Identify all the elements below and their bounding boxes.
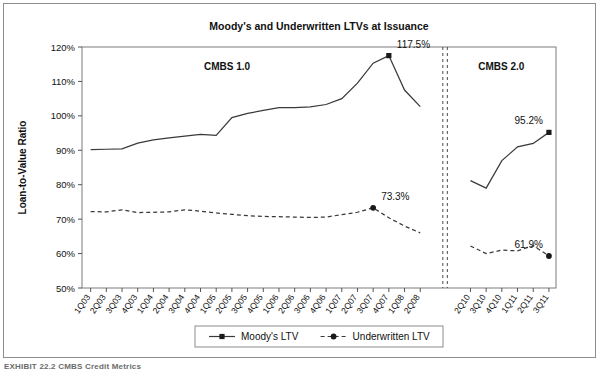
x-tick-label-cmbs2: 2Q11 xyxy=(515,292,535,315)
x-tick-label-cmbs2: 3Q11 xyxy=(531,292,551,315)
y-tick-label: 50% xyxy=(56,283,76,294)
legend-label-0: Moody's LTV xyxy=(241,331,299,342)
legend-marker-square xyxy=(219,334,224,339)
y-tick-label: 80% xyxy=(56,179,76,190)
series-line-moodys-cmbs1 xyxy=(91,56,421,150)
series-line-underwritten-cmbs1 xyxy=(91,208,421,233)
value-annotation-1: 73.3% xyxy=(381,191,409,202)
ltv-line-chart: Moody's and Underwritten LTVs at Issuanc… xyxy=(4,4,597,359)
value-annotation-3: 61.9% xyxy=(515,239,543,250)
y-tick-label: 110% xyxy=(51,76,75,87)
y-tick-label: 60% xyxy=(56,248,76,259)
value-annotation-0: 117.5% xyxy=(397,39,430,50)
y-tick-label: 70% xyxy=(56,214,76,225)
figure-caption: EXHIBIT 22.2 CMBS Credit Metrics xyxy=(4,362,599,376)
data-marker-square xyxy=(386,53,391,58)
x-tick-label-cmbs2: 4Q10 xyxy=(483,292,503,315)
series-line-moodys-cmbs2 xyxy=(470,132,548,188)
y-tick-label: 120% xyxy=(51,42,76,53)
data-marker-square xyxy=(546,130,551,135)
figure-frame: Moody's and Underwritten LTVs at Issuanc… xyxy=(3,3,596,358)
plot-area-border xyxy=(82,47,556,288)
x-tick-label-cmbs2: 1Q11 xyxy=(499,292,519,315)
data-marker-circle xyxy=(370,205,376,211)
y-axis-label: Loan-to-Value Ratio xyxy=(17,121,28,215)
region-label-cmbs1: CMBS 1.0 xyxy=(204,61,251,72)
legend-label-1: Underwritten LTV xyxy=(353,331,430,342)
data-marker-circle xyxy=(546,253,552,259)
value-annotation-2: 95.2% xyxy=(515,115,543,126)
x-tick-label-cmbs1: 2Q08 xyxy=(402,292,422,315)
y-tick-label: 100% xyxy=(51,110,76,121)
legend-marker-circle xyxy=(331,334,337,340)
y-tick-label: 90% xyxy=(56,145,76,156)
region-label-cmbs2: CMBS 2.0 xyxy=(478,61,525,72)
chart-title: Moody's and Underwritten LTVs at Issuanc… xyxy=(209,20,429,32)
